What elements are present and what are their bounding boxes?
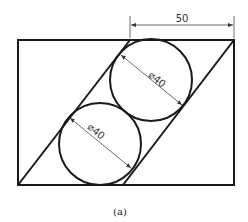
- dim-label-width: 50: [176, 13, 189, 24]
- dim-line-lower-diameter: [70, 118, 131, 168]
- technical-drawing: 50 ⌀40 ⌀40 (a): [0, 0, 248, 222]
- right-slant-line: [123, 40, 234, 185]
- dim-label-upper-diameter: ⌀40: [146, 69, 167, 89]
- dim-label-lower-diameter: ⌀40: [85, 121, 106, 141]
- lower-circle: [59, 103, 141, 185]
- figure-caption: (a): [113, 206, 127, 217]
